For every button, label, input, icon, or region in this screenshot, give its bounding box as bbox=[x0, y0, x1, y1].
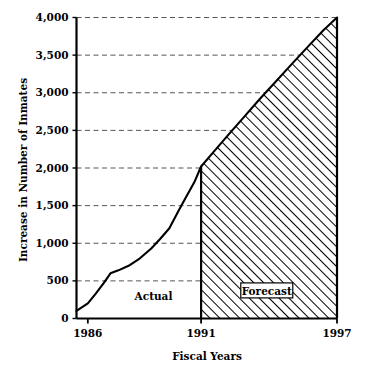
y-tick-label: 3,000 bbox=[36, 86, 69, 98]
forecast-label: Forecast bbox=[242, 285, 292, 297]
y-axis-title: Increase in Number of Inmates bbox=[17, 78, 29, 262]
line-chart-svg: 05001,0001,5002,0002,5003,0003,5004,000 … bbox=[0, 0, 373, 378]
y-tick-label: 3,500 bbox=[36, 49, 69, 61]
x-tick-label: 1991 bbox=[186, 327, 215, 339]
forecast-hatch-region bbox=[201, 18, 337, 319]
y-tick-label: 1,500 bbox=[36, 199, 69, 211]
chart-container: 05001,0001,5002,0002,5003,0003,5004,000 … bbox=[0, 0, 373, 378]
x-tick-label: 1986 bbox=[73, 327, 102, 339]
y-tick-label: 4,000 bbox=[36, 11, 69, 23]
forecast-region-fill bbox=[201, 18, 337, 319]
y-tick-label: 500 bbox=[47, 274, 69, 286]
y-tick-label: 1,000 bbox=[36, 237, 69, 249]
x-axis-tick-labels: 198619911997 bbox=[73, 327, 351, 339]
y-tick-label: 0 bbox=[61, 312, 68, 324]
x-tick-label: 1997 bbox=[322, 327, 351, 339]
y-axis-tick-labels: 05001,0001,5002,0002,5003,0003,5004,000 bbox=[36, 11, 69, 324]
y-tick-label: 2,000 bbox=[36, 162, 69, 174]
x-axis-title: Fiscal Years bbox=[172, 350, 242, 362]
actual-label: Actual bbox=[134, 290, 173, 302]
y-tick-label: 2,500 bbox=[36, 124, 69, 136]
